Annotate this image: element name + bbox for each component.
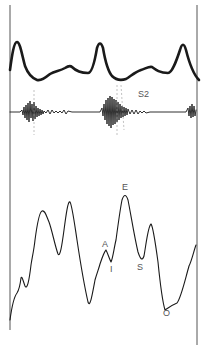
phonocardiogram-trace [10, 96, 196, 128]
annotation-s: S [137, 263, 143, 272]
annotation-s2: S2 [138, 90, 149, 99]
annotation-e: E [122, 183, 128, 192]
apex-trace [10, 196, 196, 321]
annotation-o: O [163, 309, 170, 318]
physiological-tracing-figure [0, 0, 204, 350]
annotation-a: A [102, 240, 108, 249]
annotation-i: I [110, 265, 113, 274]
pulse-trace [10, 42, 199, 80]
